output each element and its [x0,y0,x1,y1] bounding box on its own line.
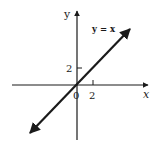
graph-figure: y x 0 2 2 y = x [0,0,154,150]
graph-canvas: y x 0 2 2 y = x [0,0,154,150]
y-tick-2-label: 2 [66,63,72,74]
x-axis-label: x [143,88,150,101]
x-tick-2-label: 2 [89,90,95,101]
y-axis-label: y [63,8,71,21]
origin-label: 0 [73,90,79,101]
line-y-equals-x [30,29,130,133]
line-label: y = x [91,24,116,34]
